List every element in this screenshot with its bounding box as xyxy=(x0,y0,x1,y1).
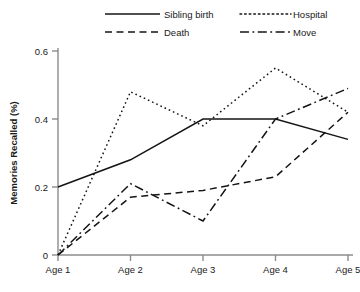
x-tick-label-age-3: Age 3 xyxy=(191,264,216,275)
y-tick-label: 0.6 xyxy=(35,46,48,57)
legend-label-sibling-birth: Sibling birth xyxy=(164,9,214,20)
x-axis-ticks: Age 1Age 2Age 3Age 4Age 5 xyxy=(46,255,360,275)
x-tick-label-age-1: Age 1 xyxy=(46,264,71,275)
series-line-sibling-birth xyxy=(58,119,348,187)
x-tick-label-age-2: Age 2 xyxy=(118,264,143,275)
y-axis-title: Memories Recalled (%) xyxy=(8,101,19,204)
chart-series-group xyxy=(58,68,348,255)
y-tick-label: 0.2 xyxy=(35,182,48,193)
legend-label-move: Move xyxy=(293,27,316,38)
chart-legend: Sibling birth Hospital Death Move xyxy=(105,9,327,38)
chart-figure: Sibling birth Hospital Death Move Memori… xyxy=(0,0,360,292)
series-line-hospital xyxy=(58,68,348,255)
legend-label-hospital: Hospital xyxy=(293,9,327,20)
x-tick-label-age-4: Age 4 xyxy=(263,264,288,275)
y-tick-label: 0.4 xyxy=(35,114,48,125)
y-axis-ticks: 00.20.40.6 xyxy=(35,46,58,261)
line-chart: Sibling birth Hospital Death Move Memori… xyxy=(0,0,360,292)
series-line-death xyxy=(58,112,348,255)
series-line-move xyxy=(58,88,348,255)
legend-label-death: Death xyxy=(164,27,189,38)
x-tick-label-age-5: Age 5 xyxy=(336,264,360,275)
y-tick-label: 0 xyxy=(43,250,48,261)
